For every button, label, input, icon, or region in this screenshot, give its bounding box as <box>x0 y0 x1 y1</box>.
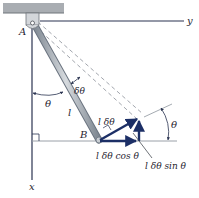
theta-label-right: θ <box>171 119 177 130</box>
theta-label-left: θ <box>45 98 51 109</box>
delta-theta-marker <box>71 77 80 84</box>
y-axis-label: y <box>186 15 193 26</box>
theta-arc-right <box>161 108 169 140</box>
theta-arc-left <box>33 92 63 95</box>
theta-reference-line <box>144 104 172 117</box>
pendulum-diagram: y x θ δθ A l B l δθ θ l δθ cos θ l δθ si… <box>0 0 199 198</box>
x-axis-label: x <box>29 181 35 192</box>
ceiling-support <box>3 3 64 13</box>
delta-theta-label: δθ <box>74 86 85 96</box>
pivot-pin <box>31 21 35 25</box>
length-label: l <box>68 107 71 118</box>
point-a-label: A <box>18 26 26 37</box>
displaced-rod-dashed-lower <box>36 27 137 119</box>
right-angle-marker <box>32 134 39 141</box>
l-delta-theta-label: l δθ <box>98 117 115 127</box>
sin-component-label: l δθ sin θ <box>145 161 187 171</box>
cos-component-label: l δθ cos θ <box>96 151 139 161</box>
displaced-rod-dashed-upper <box>38 22 143 114</box>
point-b-label: B <box>79 129 87 140</box>
